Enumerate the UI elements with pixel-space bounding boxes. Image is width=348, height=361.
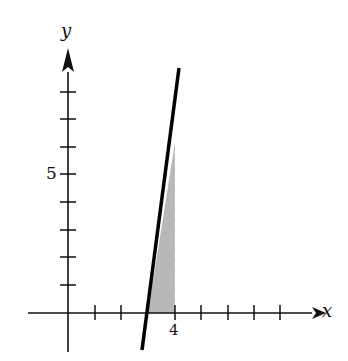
- shaded-area: [148, 142, 175, 313]
- x-axis-label: x: [322, 300, 332, 321]
- tick-label-y5: 5: [46, 163, 57, 183]
- tick-label-x4: 4: [169, 321, 179, 339]
- y-axis-arrow-icon: [62, 48, 74, 72]
- y-axis-label: y: [61, 20, 71, 41]
